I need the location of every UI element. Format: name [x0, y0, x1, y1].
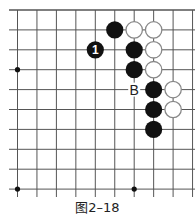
black-stone-icon [145, 121, 162, 138]
star-point-icon [132, 187, 137, 192]
white-stone-icon [145, 42, 161, 58]
white-stone-icon [165, 81, 181, 97]
black-stone-icon [106, 21, 123, 38]
star-point-icon [15, 67, 20, 72]
white-stone-icon [126, 22, 142, 38]
white-stone-icon [145, 22, 161, 38]
white-stone-icon [165, 101, 181, 117]
stone-move-number: 1 [92, 43, 99, 57]
black-stone-icon [126, 61, 143, 78]
point-label-b: B [130, 82, 139, 98]
black-stone-icon [126, 41, 143, 58]
white-stone-icon [145, 61, 161, 77]
figure-caption: 图2–18 [0, 200, 195, 216]
go-board: B 1 [0, 0, 195, 217]
star-point-icon [15, 187, 20, 192]
black-stone-icon [145, 101, 162, 118]
board-markers: B [128, 82, 140, 98]
black-stone-icon [145, 81, 162, 98]
